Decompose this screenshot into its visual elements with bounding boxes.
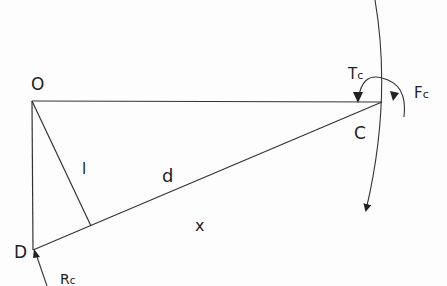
line-OD bbox=[32, 101, 33, 250]
label-Rc: Rc bbox=[60, 272, 75, 286]
label-d: d bbox=[162, 167, 173, 185]
reaction-line bbox=[36, 254, 47, 286]
label-O: O bbox=[31, 76, 44, 93]
force-arrowhead-icon bbox=[390, 91, 399, 101]
label-C: C bbox=[354, 125, 366, 142]
label-x: x bbox=[195, 218, 204, 234]
label-D: D bbox=[14, 244, 27, 261]
line-OC bbox=[32, 101, 382, 102]
mechanism-diagram: O C D l d x Tc Fc Rc bbox=[0, 0, 447, 286]
label-l: l bbox=[82, 162, 86, 177]
label-Fc: Fc bbox=[414, 86, 429, 101]
reaction-arrowhead-icon bbox=[33, 249, 40, 258]
label-Tc: Tc bbox=[348, 67, 363, 82]
diagram-lines bbox=[0, 0, 447, 286]
